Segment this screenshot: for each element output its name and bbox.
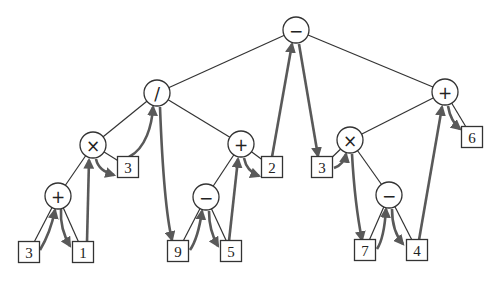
operator-node: + <box>45 183 71 209</box>
operand-node: 6 <box>462 127 483 148</box>
operator-node: + <box>228 131 254 157</box>
traversal-arrow <box>419 107 442 240</box>
operand-value: 2 <box>268 160 276 176</box>
traversal-arrow <box>96 159 114 175</box>
operator-node: − <box>193 184 219 210</box>
operator-node: / <box>144 80 170 106</box>
tree-edge <box>350 92 445 140</box>
traversal-arrow <box>377 209 386 249</box>
traversal-arrow <box>352 154 362 240</box>
operator-symbol: − <box>289 21 303 41</box>
operator-node: × <box>80 132 106 158</box>
operator-symbol: + <box>438 83 452 103</box>
traversal-arrow <box>244 158 259 176</box>
operand-node: 3 <box>312 157 333 178</box>
operator-symbol: + <box>234 135 248 155</box>
operand-value: 4 <box>413 243 421 259</box>
traversal-arrow <box>392 209 403 244</box>
operand-value: 1 <box>79 245 87 261</box>
traversal-arrow <box>129 107 153 157</box>
operand-value: 9 <box>174 244 182 260</box>
operator-node: × <box>337 127 363 153</box>
traversal-arrow <box>272 44 292 157</box>
operand-value: 7 <box>361 243 369 259</box>
operator-node: + <box>432 79 458 105</box>
operand-node: 5 <box>221 241 242 262</box>
operator-symbol: − <box>382 186 396 206</box>
operand-node: 1 <box>73 242 94 263</box>
operand-node: 2 <box>262 157 283 178</box>
tree-edge <box>296 30 445 92</box>
operator-symbol: − <box>199 188 213 208</box>
traversal-arrow <box>87 160 89 242</box>
operator-symbol: + <box>51 187 65 207</box>
operand-node: 4 <box>407 240 428 261</box>
operator-node: − <box>283 17 309 43</box>
operand-node: 3 <box>118 157 139 178</box>
traversal-arrow <box>229 159 238 241</box>
operator-symbol: × <box>86 136 100 156</box>
operand-node: 3 <box>19 242 40 263</box>
expression-tree-diagram: −/+×+×+−−3139523746 <box>0 0 500 282</box>
traversal-arrow <box>209 211 218 246</box>
tree-edge <box>157 93 241 144</box>
operand-node: 9 <box>168 241 189 262</box>
operand-value: 3 <box>318 160 326 176</box>
traversal-arrow <box>61 209 70 246</box>
tree-edge <box>157 30 296 93</box>
operand-value: 3 <box>124 160 132 176</box>
operator-symbol: × <box>343 131 357 151</box>
traversal-arrow <box>160 107 172 240</box>
traversal-arrow <box>448 106 460 129</box>
operator-symbol: / <box>154 84 160 104</box>
operator-node: − <box>376 182 402 208</box>
traversal-arrow <box>299 44 318 156</box>
operand-value: 5 <box>227 244 235 260</box>
operand-node: 7 <box>355 240 376 261</box>
operand-value: 6 <box>468 130 476 146</box>
operand-value: 3 <box>25 245 33 261</box>
traversal-arrow <box>334 154 346 168</box>
